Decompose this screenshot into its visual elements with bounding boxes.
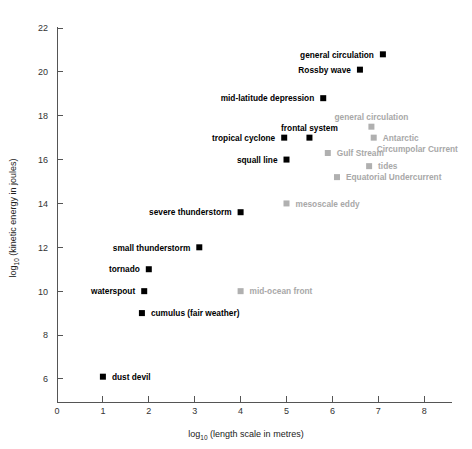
- data-point-label: waterspout: [90, 286, 135, 296]
- data-point-label: general circulation: [335, 112, 409, 122]
- data-point: frontal system: [281, 123, 338, 141]
- data-point-label: small thunderstorm: [113, 243, 190, 253]
- x-tick-label: 4: [238, 406, 243, 416]
- data-point-label: frontal system: [281, 123, 338, 133]
- chart-canvas: 6810121416182022012345678 general circul…: [0, 0, 472, 449]
- x-axis-title: log10 (length scale in metres): [188, 429, 303, 441]
- x-tick-label: 8: [422, 406, 427, 416]
- data-point-marker: [238, 209, 244, 215]
- data-point-label: Equatorial Undercurrent: [346, 172, 442, 182]
- x-tick-label: 6: [330, 406, 335, 416]
- chart-data-points: general circulationRossby wavemid-latitu…: [90, 50, 458, 382]
- data-point-label: tornado: [109, 264, 140, 274]
- data-point: small thunderstorm: [113, 243, 202, 253]
- data-point-marker: [284, 200, 290, 206]
- data-point: general circulation: [335, 112, 409, 130]
- data-point-marker: [281, 135, 287, 141]
- data-point: cumulus (fair weather): [139, 308, 240, 318]
- x-tick-label: 3: [192, 406, 197, 416]
- data-point: Equatorial Undercurrent: [334, 172, 442, 182]
- data-point-marker: [238, 288, 244, 294]
- x-tick-label: 1: [100, 406, 105, 416]
- x-tick-label: 7: [376, 406, 381, 416]
- data-point: squall line: [237, 155, 290, 165]
- data-point-label: mesoscale eddy: [296, 199, 360, 209]
- data-point-marker: [325, 150, 331, 156]
- scatter-chart: 6810121416182022012345678 general circul…: [0, 0, 472, 449]
- y-tick-label: 22: [38, 23, 48, 33]
- data-point-marker: [380, 51, 386, 57]
- data-point-marker: [139, 310, 145, 316]
- data-point-marker: [306, 135, 312, 141]
- data-point-marker: [141, 288, 147, 294]
- data-point-label: Gulf Stream: [337, 148, 384, 158]
- data-point-marker: [146, 266, 152, 272]
- data-point-label: general circulation: [300, 50, 374, 60]
- data-point-label: mid-ocean front: [250, 286, 313, 296]
- data-point-label: Antarctic: [383, 133, 419, 143]
- y-tick-label: 18: [38, 111, 48, 121]
- data-point-marker: [371, 135, 377, 141]
- data-point-label: squall line: [237, 155, 278, 165]
- chart-axis-titles: log10 (length scale in metres)log10 (kin…: [8, 159, 304, 441]
- data-point-label: Rossby wave: [298, 65, 351, 75]
- data-point: mesoscale eddy: [284, 199, 360, 209]
- data-point-marker: [368, 124, 374, 130]
- y-tick-label: 6: [43, 374, 48, 384]
- data-point: mid-latitude depression: [221, 93, 327, 103]
- data-point: tropical cyclone: [212, 133, 287, 143]
- data-point: Gulf Stream: [325, 148, 384, 158]
- data-point: general circulation: [300, 50, 386, 60]
- data-point: dust devil: [100, 372, 151, 382]
- data-point: tides: [366, 161, 398, 171]
- data-point: Rossby wave: [298, 65, 363, 75]
- y-tick-label: 14: [38, 199, 48, 209]
- data-point-label: tides: [378, 161, 398, 171]
- data-point: tornado: [109, 264, 152, 274]
- data-point-marker: [366, 163, 372, 169]
- chart-axes: 6810121416182022012345678: [38, 23, 452, 416]
- data-point-label: dust devil: [112, 372, 151, 382]
- x-tick-label: 2: [146, 406, 151, 416]
- data-point-label: mid-latitude depression: [221, 93, 315, 103]
- y-tick-label: 16: [38, 155, 48, 165]
- data-point-label: severe thunderstorm: [149, 207, 232, 217]
- data-point-label-line2: Circumpolar Current: [377, 144, 458, 154]
- data-point-label: cumulus (fair weather): [151, 308, 240, 318]
- data-point: mid-ocean front: [238, 286, 313, 296]
- data-point-marker: [284, 157, 290, 163]
- x-tick-label: 0: [54, 406, 59, 416]
- y-tick-label: 20: [38, 67, 48, 77]
- y-tick-label: 10: [38, 287, 48, 297]
- y-tick-label: 12: [38, 243, 48, 253]
- y-tick-label: 8: [43, 330, 48, 340]
- data-point-label: tropical cyclone: [212, 133, 276, 143]
- data-point-marker: [334, 174, 340, 180]
- data-point-marker: [357, 67, 363, 73]
- data-point-marker: [320, 95, 326, 101]
- x-tick-label: 5: [284, 406, 289, 416]
- data-point: waterspout: [90, 286, 147, 296]
- data-point-marker: [196, 244, 202, 250]
- data-point-marker: [100, 374, 106, 380]
- data-point: severe thunderstorm: [149, 207, 244, 217]
- y-axis-title: log10 (kinetic energy in joules): [8, 159, 20, 278]
